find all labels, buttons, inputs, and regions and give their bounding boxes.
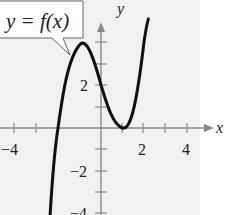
- y-tick-label-2: 2: [80, 77, 88, 94]
- x-tick-label-neg4: −4: [1, 141, 18, 158]
- x-tick-label-2: 2: [138, 141, 146, 158]
- y-tick-label-neg2: −2: [70, 163, 87, 180]
- x-axis-label: x: [215, 119, 223, 136]
- y-axis-label: y: [115, 0, 125, 18]
- function-plot: y = f(x) y x −4 2 4 2 −2 −4: [0, 0, 230, 215]
- x-axis-arrow-icon: [204, 124, 214, 132]
- x-tick-label-4: 4: [182, 141, 190, 158]
- function-label: y = f(x): [4, 9, 69, 33]
- y-tick-label-neg4: −4: [70, 205, 87, 215]
- graph-figure: y = f(x) y x −4 2 4 2 −2 −4: [0, 0, 230, 215]
